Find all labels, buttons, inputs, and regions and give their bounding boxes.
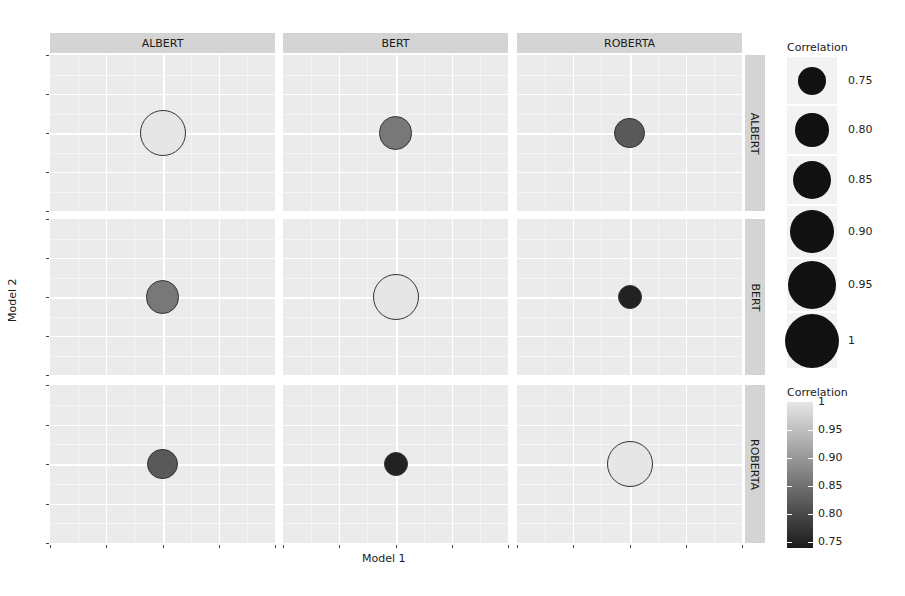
data-point[interactable] [140, 110, 186, 156]
x-axis-tick [508, 545, 509, 548]
x-axis-tick [517, 545, 518, 548]
gridline-minor-horizontal [517, 317, 742, 318]
gridline-minor-vertical [424, 55, 425, 211]
gridline-horizontal [283, 336, 508, 337]
facet-strip-bert: BERT [283, 33, 508, 53]
color-legend-label: 0.80 [818, 507, 843, 520]
size-legend-key [787, 57, 837, 104]
gridline-minor-vertical [78, 55, 79, 211]
panel-albert-albert [50, 55, 275, 211]
gridline-minor-vertical [424, 385, 425, 543]
y-axis-tick [46, 336, 49, 337]
gridline-minor-horizontal [50, 405, 275, 406]
color-legend-label: 1 [818, 395, 825, 408]
gridline-minor-vertical [311, 219, 312, 375]
gridline-minor-horizontal [517, 405, 742, 406]
gridline-minor-vertical [191, 219, 192, 375]
size-legend-label: 1 [848, 334, 855, 347]
gridline-minor-horizontal [283, 356, 508, 357]
colorbar-tick [787, 542, 792, 543]
gridline-minor-horizontal [283, 192, 508, 193]
y-axis-tick [46, 94, 49, 95]
panel-bert-albert [283, 55, 508, 211]
gridline-minor-horizontal [50, 278, 275, 279]
gridline-minor-vertical [247, 55, 248, 211]
y-axis-tick [46, 504, 49, 505]
gridline-horizontal [50, 504, 275, 505]
size-legend-dot [785, 314, 839, 368]
gridline-horizontal [283, 172, 508, 173]
gridline-minor-vertical [601, 219, 602, 375]
gridline-minor-vertical [134, 55, 135, 211]
gridline-horizontal [517, 504, 742, 505]
size-legend-key [787, 106, 837, 154]
size-legend-label: 0.80 [848, 123, 873, 136]
x-axis-tick [339, 545, 340, 548]
x-axis-tick [275, 545, 276, 548]
gridline-minor-horizontal [517, 239, 742, 240]
y-axis-tick [46, 55, 49, 56]
x-axis-tick [50, 545, 51, 548]
x-axis-tick [686, 545, 687, 548]
gridline-minor-horizontal [517, 192, 742, 193]
gridline-minor-vertical [247, 385, 248, 543]
data-point[interactable] [373, 274, 419, 320]
gridline-minor-vertical [134, 219, 135, 375]
gridline-minor-horizontal [517, 153, 742, 154]
gridline-minor-vertical [658, 55, 659, 211]
data-point[interactable] [618, 285, 642, 309]
x-axis-tick [163, 545, 164, 548]
gridline-minor-vertical [545, 385, 546, 543]
colorbar [787, 402, 813, 548]
data-point[interactable] [607, 441, 653, 487]
gridline-vertical [686, 55, 687, 211]
gridline-vertical [452, 219, 453, 375]
facet-strip-albert: ALBERT [50, 33, 275, 53]
gridline-vertical [219, 219, 220, 375]
y-axis-tick [46, 543, 49, 544]
facet-strip-label: BERT [381, 37, 409, 50]
gridline-vertical [452, 55, 453, 211]
x-axis-tick [573, 545, 574, 548]
gridline-minor-vertical [424, 219, 425, 375]
facet-strip-label: ALBERT [142, 37, 184, 50]
gridline-horizontal [517, 336, 742, 337]
colorbar-tick [787, 486, 792, 487]
gridline-minor-vertical [191, 55, 192, 211]
gridline-minor-vertical [658, 219, 659, 375]
panel-albert-roberta [50, 385, 275, 543]
size-legend-label: 0.75 [848, 74, 873, 87]
size-legend-dot [795, 113, 828, 146]
x-axis-tick [219, 545, 220, 548]
facet-strip-label: ROBERTA [604, 37, 655, 50]
gridline-vertical [219, 385, 220, 543]
size-legend-label: 0.90 [848, 225, 873, 238]
gridline-vertical [452, 385, 453, 543]
gridline-minor-vertical [658, 385, 659, 543]
gridline-minor-vertical [311, 385, 312, 543]
gridline-minor-horizontal [50, 484, 275, 485]
gridline-minor-horizontal [517, 356, 742, 357]
gridline-minor-horizontal [50, 192, 275, 193]
gridline-minor-horizontal [283, 114, 508, 115]
gridline-minor-horizontal [283, 405, 508, 406]
y-axis-tick [46, 258, 49, 259]
data-point[interactable] [147, 449, 177, 479]
y-axis-tick [46, 219, 49, 220]
y-axis-tick [46, 133, 49, 134]
y-axis-tick [46, 375, 49, 376]
y-axis-tick [46, 464, 49, 465]
gridline-minor-vertical [545, 55, 546, 211]
gridline-minor-vertical [78, 385, 79, 543]
data-point[interactable] [614, 118, 644, 148]
data-point[interactable] [146, 280, 180, 314]
gridline-minor-horizontal [50, 444, 275, 445]
colorbar-tick [787, 514, 792, 515]
gridline-horizontal [517, 172, 742, 173]
color-legend-label: 0.95 [818, 423, 843, 436]
data-point[interactable] [384, 452, 408, 476]
gridline-horizontal [50, 336, 275, 337]
x-axis-title: Model 1 [362, 552, 406, 565]
data-point[interactable] [379, 116, 413, 150]
x-axis-tick [283, 545, 284, 548]
